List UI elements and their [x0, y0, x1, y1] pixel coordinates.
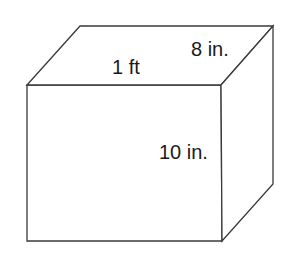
front-face-edge	[27, 85, 222, 241]
rectangular-prism-figure: 1 ft 8 in. 10 in.	[0, 0, 296, 263]
box-outline-svg	[0, 0, 296, 263]
dimension-label-depth: 8 in.	[191, 39, 229, 59]
dimension-label-height: 10 in.	[159, 142, 208, 162]
dimension-label-width: 1 ft	[112, 57, 140, 77]
